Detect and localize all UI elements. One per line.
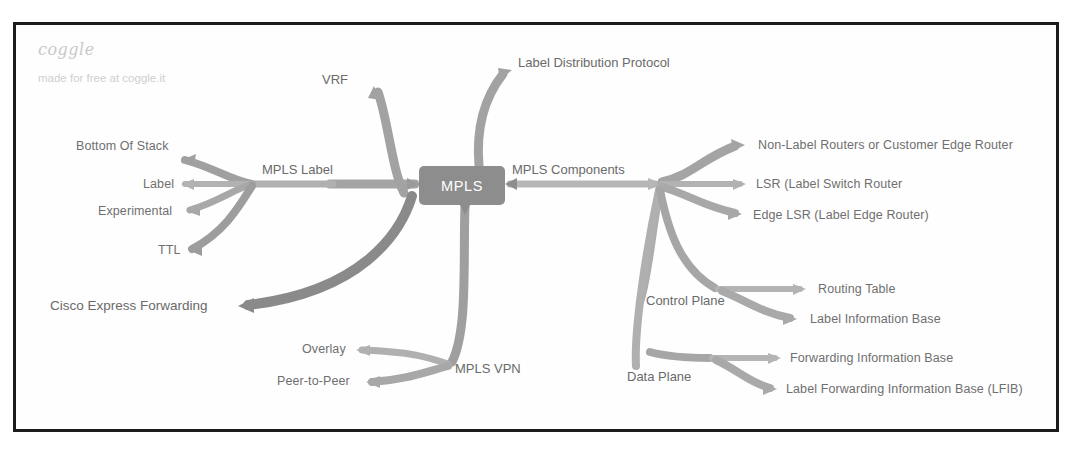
node-edge-lsr[interactable]: Edge LSR (Label Edge Router) [753, 209, 929, 222]
node-routing-table[interactable]: Routing Table [818, 283, 896, 296]
node-forwarding-information-base[interactable]: Forwarding Information Base [790, 352, 953, 365]
coggle-logo: coggle [38, 40, 95, 59]
node-non-label-routers[interactable]: Non-Label Routers or Customer Edge Route… [758, 139, 1013, 152]
node-ttl[interactable]: TTL [158, 244, 181, 257]
branch-label-distribution-protocol[interactable]: Label Distribution Protocol [518, 56, 670, 69]
node-label[interactable]: Label [143, 178, 174, 191]
node-lsr[interactable]: LSR (Label Switch Router [756, 178, 902, 191]
branch-control-plane[interactable]: Control Plane [646, 294, 725, 307]
node-bottom-of-stack[interactable]: Bottom Of Stack [76, 140, 169, 153]
node-peer-to-peer[interactable]: Peer-to-Peer [277, 375, 350, 388]
node-label-information-base[interactable]: Label Information Base [810, 313, 941, 326]
image-frame [13, 22, 1059, 432]
node-overlay[interactable]: Overlay [302, 343, 346, 356]
root-node-mpls[interactable]: MPLS [419, 166, 505, 205]
node-label-forwarding-information-base[interactable]: Label Forwarding Information Base (LFIB) [786, 383, 1023, 396]
node-experimental[interactable]: Experimental [98, 205, 172, 218]
branch-mpls-vpn[interactable]: MPLS VPN [455, 362, 521, 375]
coggle-tagline: made for free at coggle.it [38, 72, 165, 84]
mindmap-canvas: coggle made for free at coggle.it MPLS M… [0, 0, 1079, 461]
branch-data-plane[interactable]: Data Plane [627, 370, 691, 383]
branch-cisco-express-forwarding[interactable]: Cisco Express Forwarding [50, 299, 208, 313]
branch-vrf[interactable]: VRF [322, 73, 348, 86]
branch-mpls-label[interactable]: MPLS Label [262, 163, 333, 176]
branch-mpls-components[interactable]: MPLS Components [512, 163, 625, 176]
